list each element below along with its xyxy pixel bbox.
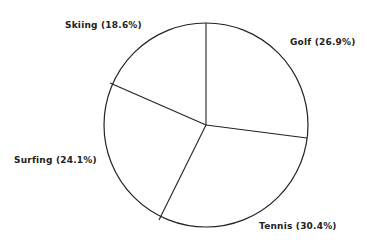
label-skiing: Skiing (18.6%) xyxy=(65,20,142,30)
label-surfing: Surfing (24.1%) xyxy=(14,155,97,165)
label-golf: Golf (26.9%) xyxy=(290,37,356,47)
label-tennis: Tennis (30.4%) xyxy=(259,221,337,231)
